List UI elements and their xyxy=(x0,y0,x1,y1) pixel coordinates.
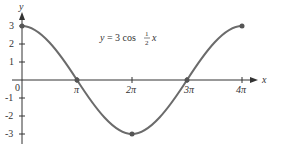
x-axis-arrow-icon xyxy=(250,77,258,83)
frac-den: 2 xyxy=(145,39,149,47)
y-axis-label: y xyxy=(18,1,24,12)
y-tick-label: -1 xyxy=(5,92,13,103)
y-tick-label: -2 xyxy=(5,110,13,121)
point-max-end xyxy=(240,24,245,29)
equation-var: x xyxy=(151,32,157,43)
y-tick-label: 3 xyxy=(9,20,14,31)
point-zero-pi xyxy=(75,78,80,83)
y-axis-arrow-icon xyxy=(19,12,25,20)
cosine-graph: x y 3 2 1 -1 -2 -3 0 π 2π 3π 4π y = 3 co… xyxy=(0,0,284,154)
svg-text:y = 3 cos: y = 3 cos xyxy=(99,32,136,43)
x-tick-label: 2π xyxy=(126,84,137,95)
point-zero-3pi xyxy=(185,78,190,83)
point-min xyxy=(130,132,135,137)
y-tick-label: 1 xyxy=(9,56,14,67)
y-tick-label: 2 xyxy=(9,38,14,49)
x-tick-label: 4π xyxy=(236,84,247,95)
frac-num: 1 xyxy=(145,30,149,38)
y-tick-label: -3 xyxy=(5,128,13,139)
x-axis-label: x xyxy=(261,74,267,85)
x-tick-label: π xyxy=(74,84,80,95)
point-max-start xyxy=(20,24,25,29)
x-tick-label: 3π xyxy=(183,84,195,95)
origin-label: 0 xyxy=(15,82,20,93)
equation-label: y = 3 cos 1 2 x xyxy=(99,30,157,47)
